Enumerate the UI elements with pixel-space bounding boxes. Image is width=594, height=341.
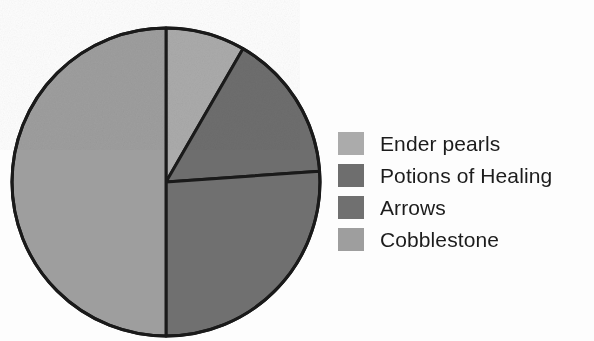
legend-swatch-icon	[338, 228, 364, 251]
chart-legend: Ender pearls Potions of Healing Arrows C…	[338, 127, 588, 255]
pie-chart-svg	[8, 24, 324, 340]
legend-swatch-icon	[338, 132, 364, 155]
legend-item-label: Ender pearls	[380, 132, 500, 155]
legend-item-label: Arrows	[380, 196, 446, 219]
pie-chart-plot-area	[8, 24, 324, 340]
legend-item-arrows[interactable]: Arrows	[338, 191, 588, 223]
pie-chart-figure: Ender pearls Potions of Healing Arrows C…	[0, 0, 594, 341]
legend-item-cobblestone[interactable]: Cobblestone	[338, 223, 588, 255]
legend-item-label: Cobblestone	[380, 228, 499, 251]
legend-item-potions-of-healing[interactable]: Potions of Healing	[338, 159, 588, 191]
legend-item-ender-pearls[interactable]: Ender pearls	[338, 127, 588, 159]
pie-slice[interactable]	[166, 171, 320, 336]
legend-item-label: Potions of Healing	[380, 164, 552, 187]
legend-swatch-icon	[338, 196, 364, 219]
legend-swatch-icon	[338, 164, 364, 187]
pie-slice[interactable]	[12, 28, 166, 336]
pie-slice-group	[12, 28, 320, 336]
